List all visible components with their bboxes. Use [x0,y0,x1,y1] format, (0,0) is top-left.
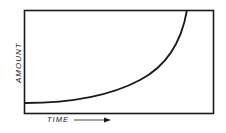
chart-frame [25,11,214,114]
x-axis-label: TIME [47,115,69,124]
chart-canvas [0,0,226,133]
time-arrow-head-icon [104,118,111,123]
y-axis-label: AMOUNT [14,42,23,83]
growth-curve [25,10,187,103]
